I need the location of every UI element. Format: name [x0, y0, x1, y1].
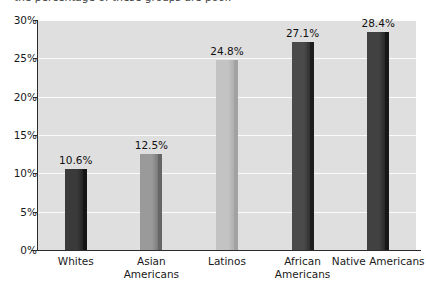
bar-side-shadow	[385, 32, 389, 250]
bar: 12.5%	[140, 154, 162, 250]
bar-side-shadow	[310, 42, 314, 250]
x-axis-line	[31, 250, 421, 251]
caption-strip: the percentage of these groups are poor.	[0, 0, 426, 12]
bar: 28.4%	[367, 32, 389, 250]
gridline	[38, 20, 416, 21]
bar-side-shadow	[234, 60, 238, 250]
bar-side-shadow	[83, 169, 87, 250]
caption-text: the percentage of these groups are poor.	[14, 0, 231, 3]
y-axis: 0%5%10%15%20%25%30%	[0, 12, 37, 288]
x-axis-category-label-line: Americans	[101, 268, 203, 281]
bar: 27.1%	[292, 42, 314, 250]
x-axis-category-label-line: Americans	[252, 268, 354, 281]
plot-area: 10.6%12.5%24.8%27.1%28.4%	[38, 20, 416, 250]
bar-chart: 0%5%10%15%20%25%30% 10.6%12.5%24.8%27.1%…	[0, 12, 426, 288]
x-axis-category-label: Native Americans	[327, 255, 426, 268]
x-axis-category-label-line: Native Americans	[327, 255, 426, 268]
bar-value-label: 24.8%	[210, 45, 243, 57]
bar-side-shadow	[158, 154, 162, 250]
bar: 24.8%	[216, 60, 238, 250]
bar: 10.6%	[65, 169, 87, 250]
bar-value-label: 12.5%	[135, 139, 168, 151]
bar-value-label: 10.6%	[59, 154, 92, 166]
bar-value-label: 28.4%	[362, 17, 395, 29]
y-axis-line	[37, 20, 38, 251]
bar-value-label: 27.1%	[286, 27, 319, 39]
